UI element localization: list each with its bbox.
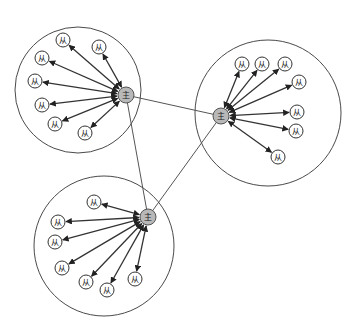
slave-node: 从 bbox=[48, 117, 62, 131]
slave-label: 从 bbox=[82, 278, 90, 287]
bidirectional-arrow bbox=[230, 112, 289, 115]
slave-node: 从 bbox=[271, 150, 285, 164]
slave-node: 从 bbox=[278, 57, 292, 71]
bidirectional-arrow bbox=[137, 226, 147, 271]
slave-node: 从 bbox=[35, 51, 49, 65]
slave-node: 从 bbox=[56, 33, 70, 47]
master-links bbox=[126, 95, 221, 217]
slave-label: 从 bbox=[51, 238, 59, 247]
bidirectional-arrow bbox=[91, 101, 120, 127]
slave-label: 从 bbox=[131, 275, 139, 284]
slave-node: 从 bbox=[100, 283, 114, 297]
slave-node: 从 bbox=[255, 57, 269, 71]
bidirectional-arrow bbox=[49, 61, 117, 91]
master-link bbox=[148, 116, 221, 217]
slave-label: 从 bbox=[51, 120, 59, 129]
slave-node: 从 bbox=[51, 215, 65, 229]
slave-label: 从 bbox=[54, 218, 62, 227]
master-node: 主 bbox=[140, 209, 156, 225]
slave-label: 从 bbox=[59, 36, 67, 45]
bidirectional-arrow bbox=[92, 224, 142, 277]
master-label: 主 bbox=[217, 111, 225, 121]
slave-label: 从 bbox=[81, 129, 89, 138]
bidirectional-arrow bbox=[43, 82, 117, 93]
slave-label: 从 bbox=[295, 78, 303, 87]
slave-label: 从 bbox=[38, 101, 46, 110]
slave-node: 从 bbox=[35, 98, 49, 112]
slave-label: 从 bbox=[274, 153, 282, 162]
slave-label: 从 bbox=[58, 264, 66, 273]
slave-node: 从 bbox=[290, 105, 304, 119]
slave-label: 从 bbox=[38, 54, 46, 63]
bidirectional-arrow bbox=[229, 85, 291, 112]
master-label: 主 bbox=[144, 212, 152, 222]
slave-node: 从 bbox=[87, 195, 101, 209]
master-label: 主 bbox=[122, 90, 130, 100]
slave-node: 从 bbox=[128, 272, 142, 286]
bidirectional-arrow bbox=[102, 204, 140, 214]
slave-label: 从 bbox=[293, 108, 301, 117]
slave-label: 从 bbox=[31, 77, 39, 86]
nodes: 从从从从从从从主从从从从从从从主从从从从从从从主 bbox=[28, 33, 306, 297]
slave-label: 从 bbox=[238, 60, 246, 69]
slave-node: 从 bbox=[28, 74, 42, 88]
slave-label: 从 bbox=[103, 286, 111, 295]
bidirectional-arrow bbox=[228, 121, 271, 152]
slave-node: 从 bbox=[55, 261, 69, 275]
slave-label: 从 bbox=[90, 198, 98, 207]
slave-node: 从 bbox=[292, 75, 306, 89]
bidirectional-arrow bbox=[66, 217, 139, 221]
slave-node: 从 bbox=[79, 275, 93, 289]
slave-label: 从 bbox=[281, 60, 289, 69]
master-node: 主 bbox=[213, 108, 229, 124]
slave-node: 从 bbox=[92, 40, 106, 54]
bidirectional-arrow bbox=[230, 118, 288, 130]
master-slave-edges bbox=[43, 45, 292, 283]
slave-label: 从 bbox=[95, 43, 103, 52]
slave-node: 从 bbox=[235, 57, 249, 71]
slave-label: 从 bbox=[292, 127, 300, 136]
slave-label: 从 bbox=[258, 60, 266, 69]
slave-node: 从 bbox=[78, 126, 92, 140]
master-node: 主 bbox=[118, 87, 134, 103]
slave-node: 从 bbox=[289, 124, 303, 138]
slave-node: 从 bbox=[48, 235, 62, 249]
cluster-diagram: 从从从从从从从主从从从从从从从主从从从从从从从主 bbox=[0, 0, 342, 325]
bidirectional-arrow bbox=[69, 222, 140, 264]
master-link bbox=[126, 95, 221, 116]
